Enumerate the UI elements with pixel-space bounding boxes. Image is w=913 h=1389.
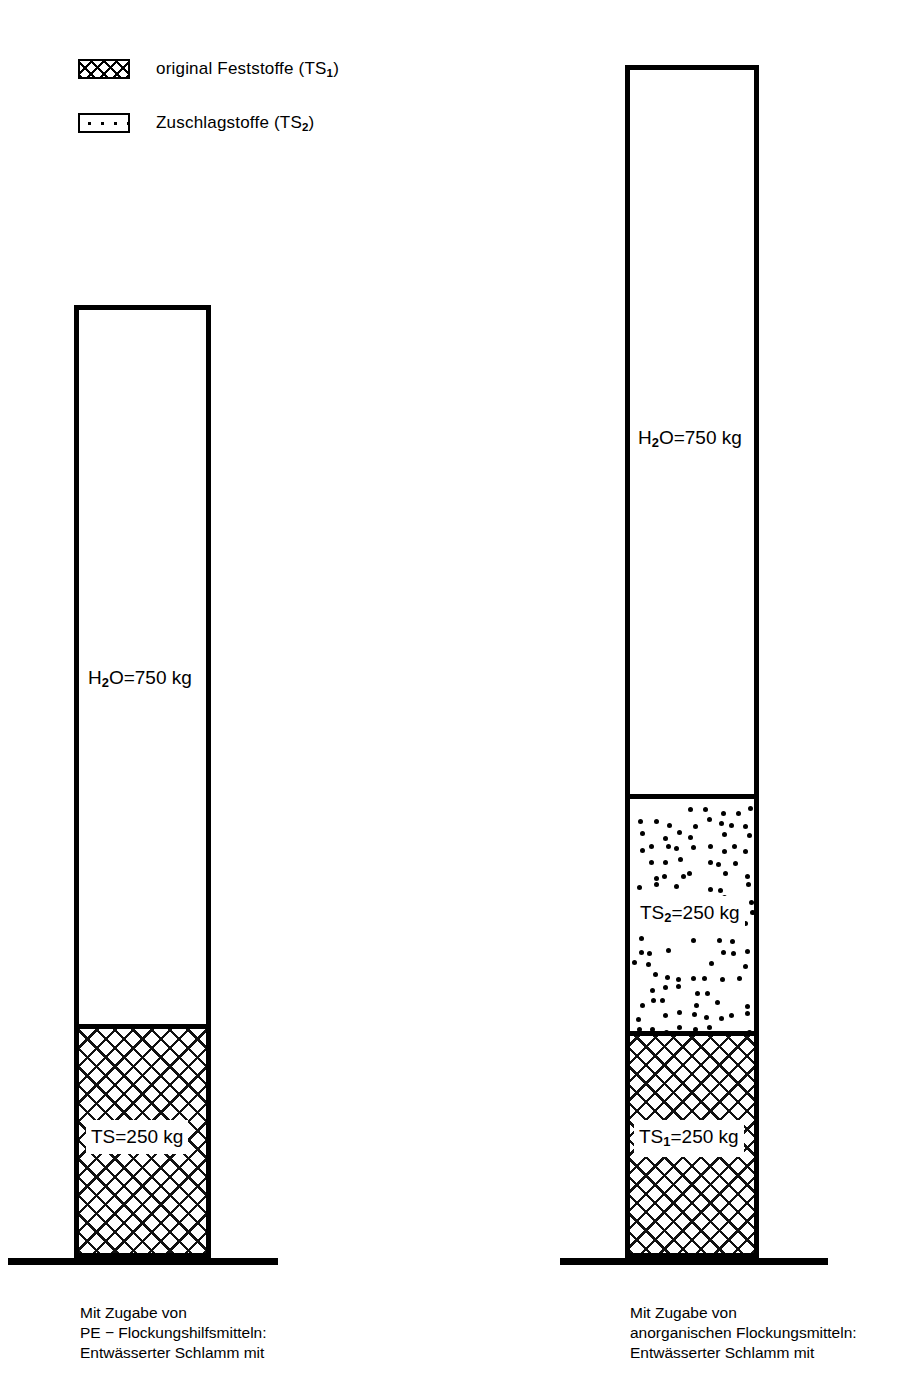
- stipple-dot: [640, 1003, 645, 1008]
- stipple-dot: [678, 857, 683, 862]
- left-column-water-label: H2O=750 kg: [88, 668, 192, 690]
- stipple-dot: [704, 1015, 709, 1020]
- stipple-dot: [646, 962, 651, 967]
- stipple-dot: [743, 964, 748, 969]
- subscript-2: 2: [302, 121, 309, 133]
- stipple-dot: [653, 972, 658, 977]
- right-column-vessel: [625, 65, 759, 1258]
- stipple-dot: [736, 811, 741, 816]
- stipple-dot: [663, 860, 668, 865]
- stipple-dot: [720, 977, 725, 982]
- stipple-dot: [654, 876, 659, 881]
- stipple-dot: [745, 874, 750, 879]
- left-column-solids-label: TS=250 kg: [86, 1120, 188, 1154]
- stipple-dot: [721, 811, 726, 816]
- stipple-dot: [662, 874, 667, 879]
- stipple-dot: [687, 871, 692, 876]
- stipple-dot: [691, 938, 696, 943]
- stipple-dot: [647, 951, 652, 956]
- stipple-dot: [729, 823, 734, 828]
- stipple-dot: [703, 807, 708, 812]
- stipple-dot: [709, 961, 714, 966]
- stipple-dot: [688, 807, 693, 812]
- stipple-dot: [723, 871, 728, 876]
- stipple-dot: [732, 844, 737, 849]
- stipple-dot: [637, 885, 642, 890]
- stipple-dot: [702, 976, 707, 981]
- stipple-dot: [708, 887, 713, 892]
- stipple-dot: [719, 821, 724, 826]
- stipple-dot: [743, 824, 748, 829]
- stipple-dot: [676, 984, 681, 989]
- stipple-dot: [750, 910, 754, 915]
- stipple-dot: [688, 835, 693, 840]
- diagram-canvas: original Feststoffe (TS1) Zuschlagstoffe…: [0, 0, 913, 1389]
- stipple-dot: [730, 939, 735, 944]
- right-column-additives-label: TS2=250 kg: [635, 896, 745, 933]
- stipple-dot: [748, 806, 753, 811]
- stipple-dot: [663, 836, 668, 841]
- stipple-dot: [745, 1004, 750, 1009]
- stipple-dot: [636, 1017, 641, 1022]
- stipple-dot: [747, 833, 752, 838]
- legend-item-label: original Feststoffe (TS1): [156, 59, 339, 79]
- right-column-water-label: H2O=750 kg: [638, 428, 742, 450]
- stipple-dot: [654, 819, 659, 824]
- stipple-dot: [674, 846, 679, 851]
- stipple-dot: [716, 862, 721, 867]
- stipple-dot: [676, 977, 681, 982]
- stipple-dot: [638, 819, 643, 824]
- legend-item-original-feststoffe: original Feststoffe (TS1): [78, 52, 339, 86]
- subscript-2: 2: [664, 910, 671, 925]
- stipple-dot: [722, 832, 727, 837]
- stipple-dot: [731, 951, 736, 956]
- stipple-dot: [649, 860, 654, 865]
- stipple-dot: [745, 1011, 750, 1016]
- stipple-dot: [719, 1016, 724, 1021]
- stipple-dot: [746, 882, 751, 887]
- stipple-dot: [691, 845, 696, 850]
- stipple-dot: [718, 888, 723, 893]
- stipple-dot: [639, 936, 644, 941]
- legend: original Feststoffe (TS1) Zuschlagstoffe…: [78, 52, 339, 140]
- stipple-dot: [749, 900, 754, 905]
- right-column-ground-line: [560, 1258, 828, 1265]
- right-column-solids-label: TS1=250 kg: [634, 1120, 744, 1157]
- left-column-ground-line: [8, 1258, 278, 1265]
- stipple-dot: [677, 830, 682, 835]
- left-column-caption: Mit Zugabe von PE − Flockungshilfsmittel…: [80, 1303, 380, 1362]
- subscript-1: 1: [327, 67, 334, 79]
- subscript-2: 2: [652, 435, 659, 450]
- stipple-dot: [677, 1025, 682, 1030]
- stipple-dot: [666, 844, 671, 849]
- legend-item-zuschlagstoffe: Zuschlagstoffe (TS2): [78, 106, 339, 140]
- stipple-dot: [691, 976, 696, 981]
- stipple-dot: [745, 949, 750, 954]
- stipple-dot: [663, 1013, 668, 1018]
- stipple-dot: [674, 884, 679, 889]
- stipple-dot: [729, 1013, 734, 1018]
- stipple-dot: [721, 950, 726, 955]
- stipple-dot: [665, 975, 670, 980]
- stipple-dot: [651, 998, 656, 1003]
- stipple-dot: [708, 860, 713, 865]
- subscript-1: 1: [663, 1134, 670, 1149]
- legend-item-label: Zuschlagstoffe (TS2): [156, 113, 314, 133]
- stipple-dot: [640, 848, 645, 853]
- stipple-dot: [708, 844, 713, 849]
- stipple-dot: [667, 823, 672, 828]
- stipple-dot: [722, 849, 727, 854]
- cross-hatch-pattern-icon: [78, 59, 130, 79]
- stipple-dot: [663, 985, 668, 990]
- stipple-dot: [693, 824, 698, 829]
- dot-stipple-pattern-icon: [78, 113, 130, 133]
- stipple-dot: [677, 1010, 682, 1015]
- right-column-caption: Mit Zugabe von anorganischen Flockungsmi…: [630, 1303, 913, 1362]
- stipple-dot: [707, 817, 712, 822]
- stipple-dot: [715, 1000, 720, 1005]
- stipple-dot: [666, 948, 671, 953]
- stipple-dot: [639, 950, 644, 955]
- subscript-2: 2: [102, 675, 109, 690]
- stipple-dot: [681, 874, 686, 879]
- stipple-dot: [692, 1012, 697, 1017]
